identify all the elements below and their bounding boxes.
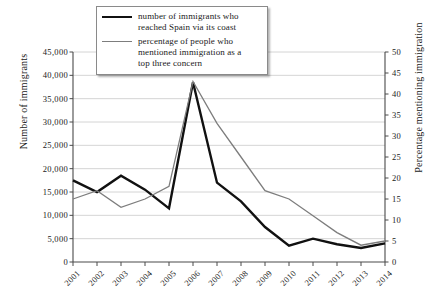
legend-swatch-percentage-line-icon <box>102 41 132 42</box>
legend-label-immigrants: number of immigrants whoreached Spain vi… <box>138 11 239 33</box>
gridlines <box>73 52 385 239</box>
legend-item-percentage: percentage of people whomentioned immigr… <box>102 36 262 69</box>
legend-label-percentage: percentage of people whomentioned immigr… <box>138 36 241 69</box>
axis-frame <box>73 52 385 262</box>
data-series <box>73 81 385 248</box>
chart-legend: number of immigrants whoreached Spain vi… <box>96 6 268 75</box>
legend-swatch-immigrants-line-icon <box>102 16 132 18</box>
immigration-line-chart: Number of immigrants Percentage mentioni… <box>0 0 442 297</box>
legend-item-immigrants: number of immigrants whoreached Spain vi… <box>102 11 262 33</box>
